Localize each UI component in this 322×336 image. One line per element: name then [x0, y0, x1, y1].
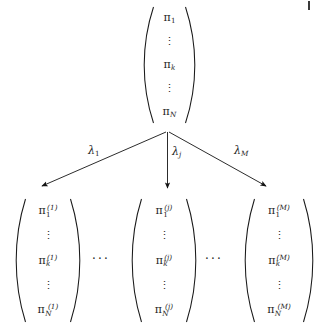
- branch-label-lambda-1: λ1: [88, 145, 100, 157]
- vector-entry: πk(j): [156, 254, 173, 268]
- vertical-ellipsis: ⋮: [164, 83, 175, 94]
- vertical-ellipsis: ⋮: [164, 36, 175, 47]
- left-paren: [130, 198, 143, 323]
- entry-superscript: (M): [278, 302, 291, 311]
- vertical-ellipsis: ⋮: [274, 280, 285, 291]
- branch-label-lambda-M: λM: [234, 145, 248, 157]
- entry-superscript: (j): [164, 203, 172, 212]
- entry-superscript: (j): [164, 253, 172, 262]
- page-edge-artifact: [308, 1, 310, 10]
- vector-entry: πN(M): [267, 303, 291, 317]
- entry-superscript: (M): [277, 203, 290, 212]
- entry-superscript: (M): [277, 253, 290, 262]
- right-paren: [69, 198, 82, 323]
- left-paren: [14, 198, 27, 323]
- lambda-subscript: M: [241, 149, 248, 158]
- vertical-ellipsis: ⋮: [159, 280, 170, 291]
- horizontal-ellipsis-left: ···: [92, 253, 110, 265]
- child-vector-1: π1(1) ⋮ πk(1) ⋮ πN(1): [14, 198, 82, 323]
- vertical-ellipsis: ⋮: [43, 280, 54, 291]
- right-paren: [185, 198, 198, 323]
- entry-superscript: (1): [47, 253, 57, 262]
- vector-entry: π1: [163, 12, 175, 25]
- branch-label-lambda-j: λj: [172, 146, 181, 158]
- branch-arrow-left: [42, 132, 166, 186]
- entry-superscript: (1): [48, 302, 58, 311]
- vector-entry: π1(j): [156, 204, 173, 218]
- vector-entry: πk(1): [39, 254, 58, 268]
- child-vector-1-entries: π1(1) ⋮ πk(1) ⋮ πN(1): [27, 198, 69, 323]
- vector-entry: πk: [164, 59, 176, 72]
- vector-entry: πN: [163, 106, 177, 119]
- vertical-ellipsis: ⋮: [43, 230, 54, 241]
- lambda-subscript: 1: [95, 149, 100, 158]
- vertical-ellipsis: ⋮: [159, 230, 170, 241]
- entry-subscript: 1: [171, 16, 176, 25]
- parent-vector-pi: π1 ⋮ πk ⋮ πN: [142, 6, 197, 124]
- vector-entry: π1(M): [268, 204, 290, 218]
- right-paren: [184, 6, 197, 124]
- vector-entry: πk(M): [268, 254, 290, 268]
- lambda-subscript: j: [179, 150, 181, 159]
- vertical-ellipsis: ⋮: [274, 230, 285, 241]
- vector-entry: πN(j): [155, 303, 173, 317]
- left-paren: [243, 198, 256, 323]
- child-vector-M-entries: π1(M) ⋮ πk(M) ⋮ πN(M): [256, 198, 302, 323]
- entry-subscript: N: [170, 110, 176, 119]
- right-paren: [302, 198, 315, 323]
- branching-vector-diagram: π1 ⋮ πk ⋮ πN λ1 λj λM: [0, 0, 322, 336]
- vector-entry: πN(1): [38, 303, 59, 317]
- parent-vector-entries: π1 ⋮ πk ⋮ πN: [155, 6, 184, 124]
- branch-arrow-right: [169, 132, 266, 186]
- horizontal-ellipsis-right: ···: [205, 253, 223, 265]
- entry-superscript: (1): [47, 203, 57, 212]
- left-paren: [142, 6, 155, 124]
- child-vector-j: π1(j) ⋮ πk(j) ⋮ πN(j): [130, 198, 198, 323]
- entry-superscript: (j): [165, 302, 173, 311]
- vector-entry: π1(1): [38, 204, 57, 218]
- entry-subscript: k: [171, 63, 175, 72]
- child-vector-M: π1(M) ⋮ πk(M) ⋮ πN(M): [243, 198, 315, 323]
- child-vector-j-entries: π1(j) ⋮ πk(j) ⋮ πN(j): [143, 198, 185, 323]
